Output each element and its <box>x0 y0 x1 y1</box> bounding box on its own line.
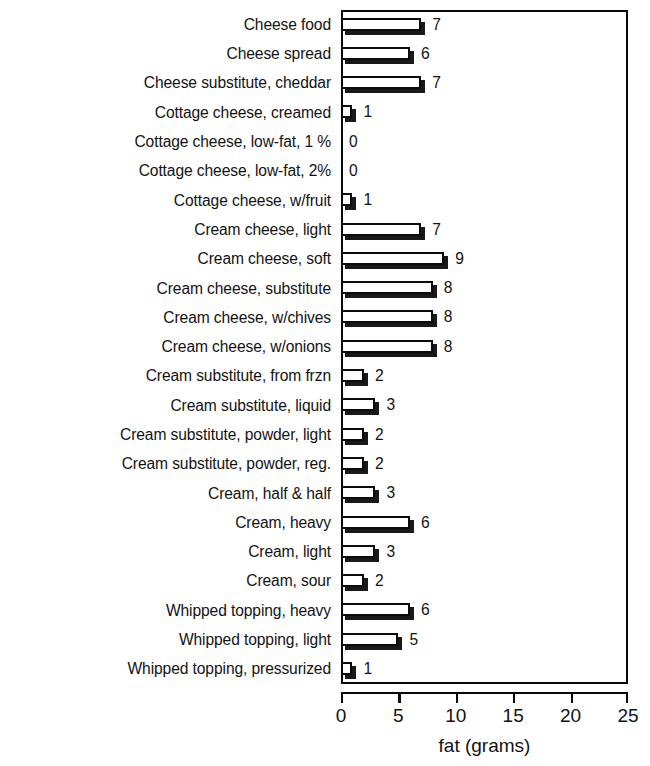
category-label-row: Cream, heavy <box>0 508 336 537</box>
x-axis-tick-label: 20 <box>560 706 581 725</box>
category-label: Cottage cheese, w/fruit <box>174 193 331 209</box>
bar <box>341 662 352 675</box>
x-axis-tick-label: 0 <box>336 706 347 725</box>
category-label-row: Cottage cheese, creamed <box>0 98 336 127</box>
category-label-row: Cream cheese, light <box>0 215 336 244</box>
bar <box>341 281 433 294</box>
bar <box>341 428 364 441</box>
bar-row: 1 <box>341 186 650 215</box>
bar-row: 7 <box>341 69 650 98</box>
bar-row: 5 <box>341 625 650 654</box>
bar <box>341 310 433 323</box>
category-label: Whipped topping, light <box>179 632 331 648</box>
bar <box>341 340 433 353</box>
bar-value-label: 2 <box>375 427 384 443</box>
category-label-row: Cottage cheese, low-fat, 2% <box>0 156 336 185</box>
bar-value-label: 9 <box>455 251 464 267</box>
bar <box>341 223 421 236</box>
x-axis-tick-label: 15 <box>503 706 524 725</box>
category-label-row: Cream cheese, substitute <box>0 274 336 303</box>
bar-value-label: 1 <box>363 104 372 120</box>
category-label-row: Cream cheese, w/chives <box>0 303 336 332</box>
bar-row: 2 <box>341 567 650 596</box>
bar <box>341 457 364 470</box>
x-axis-tick <box>398 692 400 703</box>
category-label-row: Whipped topping, heavy <box>0 596 336 625</box>
bar-value-label: 2 <box>375 456 384 472</box>
category-label-row: Cream cheese, soft <box>0 244 336 273</box>
bar-value-label: 7 <box>432 222 441 238</box>
bar <box>341 486 375 499</box>
x-axis-tick-label: 10 <box>445 706 466 725</box>
category-label: Cream substitute, powder, light <box>120 427 331 443</box>
x-axis-tick <box>571 692 573 703</box>
bar-value-label: 6 <box>421 46 430 62</box>
bar-value-label: 8 <box>444 309 453 325</box>
bar <box>341 545 375 558</box>
bar-value-label: 1 <box>363 661 372 677</box>
x-axis-title: fat (grams) <box>341 736 628 755</box>
category-label-row: Cream substitute, liquid <box>0 391 336 420</box>
category-axis-labels: Cheese foodCheese spreadCheese substitut… <box>0 10 336 684</box>
bar-row: 8 <box>341 303 650 332</box>
category-label-row: Cream, light <box>0 537 336 566</box>
category-label-row: Cream cheese, w/onions <box>0 332 336 361</box>
bar <box>341 603 410 616</box>
category-label-row: Cheese spread <box>0 39 336 68</box>
bar-row: 7 <box>341 215 650 244</box>
category-label-row: Cottage cheese, w/fruit <box>0 186 336 215</box>
bar <box>341 398 375 411</box>
category-label: Whipped topping, heavy <box>166 603 331 619</box>
bar-value-label: 6 <box>421 515 430 531</box>
x-axis-tick <box>341 692 343 703</box>
x-axis-tick <box>626 692 628 703</box>
bar-value-label: 3 <box>386 485 395 501</box>
bar-row: 1 <box>341 98 650 127</box>
bar-chart: Cheese foodCheese spreadCheese substitut… <box>0 0 650 766</box>
bar <box>341 105 352 118</box>
category-label-row: Cream, half & half <box>0 479 336 508</box>
category-label: Cream, sour <box>246 573 331 589</box>
bar-row: 7 <box>341 10 650 39</box>
bar <box>341 369 364 382</box>
bar-row: 2 <box>341 420 650 449</box>
category-label-row: Cream substitute, powder, reg. <box>0 449 336 478</box>
bar-value-label: 7 <box>432 17 441 33</box>
bars-layer: 76710017988823223632651 <box>341 10 650 684</box>
bar-row: 2 <box>341 449 650 478</box>
category-label: Cream substitute, liquid <box>170 398 331 414</box>
category-label: Cottage cheese, low-fat, 2% <box>139 163 331 179</box>
bar-value-label: 5 <box>409 632 418 648</box>
bar <box>341 47 410 60</box>
category-label-row: Cottage cheese, low-fat, 1 % <box>0 127 336 156</box>
x-axis: 0510152025 <box>341 692 628 693</box>
category-label-row: Cream substitute, from frzn <box>0 362 336 391</box>
bar-row: 2 <box>341 362 650 391</box>
bar-value-label: 3 <box>386 544 395 560</box>
bar-value-label: 3 <box>386 397 395 413</box>
bar-value-label: 0 <box>349 134 358 150</box>
category-label-row: Whipped topping, pressurized <box>0 655 336 684</box>
bar <box>341 252 444 265</box>
bar-row: 9 <box>341 244 650 273</box>
category-label-row: Cheese substitute, cheddar <box>0 69 336 98</box>
x-axis-tick-label: 5 <box>393 706 404 725</box>
bar <box>341 76 421 89</box>
bar-row: 1 <box>341 655 650 684</box>
category-label-row: Whipped topping, light <box>0 625 336 654</box>
category-label: Cheese food <box>244 17 331 33</box>
bar-value-label: 1 <box>363 192 372 208</box>
category-label: Cream substitute, from frzn <box>146 368 331 384</box>
bar <box>341 574 364 587</box>
bar-row: 0 <box>341 156 650 185</box>
bar-value-label: 6 <box>421 602 430 618</box>
bar <box>341 633 398 646</box>
category-label: Cheese substitute, cheddar <box>144 75 331 91</box>
category-label: Cream, light <box>248 544 331 560</box>
bar-row: 8 <box>341 332 650 361</box>
category-label: Whipped topping, pressurized <box>127 661 331 677</box>
bar <box>341 193 352 206</box>
category-label: Cream cheese, soft <box>198 251 331 267</box>
x-axis-tick <box>456 692 458 703</box>
bar <box>341 18 421 31</box>
